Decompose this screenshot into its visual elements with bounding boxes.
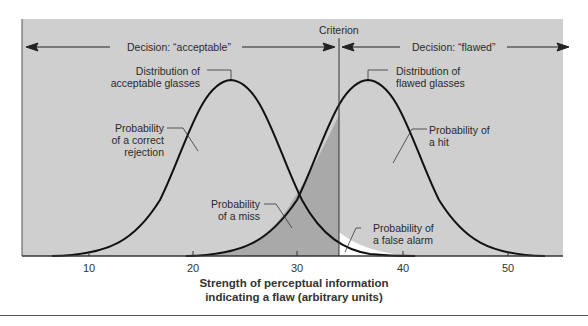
x-axis-title-line-2: indicating a flaw (arbitrary units) [0, 290, 588, 304]
tick-label-20: 20 [187, 262, 199, 274]
correct-rejection-label-1: Probability [64, 122, 164, 134]
dist-flawed-label-2: flawed glasses [396, 77, 465, 89]
flawed-distribution-curve [186, 80, 545, 256]
decision-flawed-label: Decision: “flawed” [412, 41, 495, 53]
hit-label-1: Probability of [429, 124, 490, 136]
tick-label-40: 40 [397, 262, 409, 274]
miss-label-2: of a miss [160, 210, 260, 222]
tick-label-10: 10 [83, 262, 95, 274]
correct-rejection-label-2: of a correct [64, 134, 164, 146]
false-alarm-label-1: Probability of [373, 222, 434, 234]
dist-acceptable-label-2: acceptable glasses [100, 77, 200, 89]
bottom-rule [0, 315, 588, 316]
decision-acceptable-label: Decision: “acceptable” [127, 41, 231, 53]
tick-label-50: 50 [502, 262, 514, 274]
tick-label-30: 30 [291, 262, 303, 274]
false-alarm-label-2: a false alarm [373, 234, 433, 246]
x-axis-title-line-1: Strength of perceptual information [0, 276, 588, 290]
dist-flawed-label-1: Distribution of [396, 65, 460, 77]
x-axis-title: Strength of perceptual information indic… [0, 276, 588, 304]
correct-rejection-label-3: rejection [64, 146, 164, 158]
criterion-label: Criterion [319, 24, 359, 36]
acceptable-distribution-curve [52, 80, 415, 256]
miss-label-1: Probability [160, 198, 260, 210]
hit-label-2: a hit [429, 136, 449, 148]
dist-acceptable-label-1: Distribution of [100, 65, 200, 77]
